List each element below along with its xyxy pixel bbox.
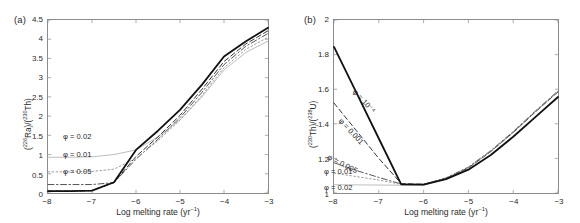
series-line <box>334 47 558 185</box>
panel-a-annotation-phi-005: φ = 0.05 <box>63 167 91 176</box>
y-tick-label: 3.5 <box>11 53 43 62</box>
y-tick-label: 4 <box>11 34 43 43</box>
panel-a-y-iso1: 226 <box>22 138 28 147</box>
panel-a-x-axis-title: Log melting rate (yr−1) <box>116 207 200 217</box>
panel-b-annotation-phi-001: φ = 0.01 <box>324 167 352 176</box>
panel-a-annotation-phi-001: φ = 0.01 <box>63 150 91 159</box>
panel-b-x-axis-title-close: ) <box>485 207 488 217</box>
y-tick-label: 1.2 <box>297 155 329 164</box>
panel-a-y-axis-title: (226Ra)/(230Th) <box>24 98 33 150</box>
y-tick-label: 0 <box>11 190 43 199</box>
panel-b-annotation-phi-002: φ = 0.02 <box>324 183 352 192</box>
x-tick-label: −7 <box>374 197 383 206</box>
panel-a-x-axis-title-exp: −1 <box>190 206 197 212</box>
panel-a-x-axis-title-close: ) <box>197 207 200 217</box>
x-tick-label: −4 <box>220 197 229 206</box>
panel-b-x-axis-title: Log melting rate (yr−1) <box>404 207 488 217</box>
x-tick-label: −4 <box>509 197 518 206</box>
x-tick-label: −7 <box>87 197 96 206</box>
series-line <box>48 33 268 184</box>
x-tick-label: −6 <box>419 197 428 206</box>
panel-a-annotation-phi-002: φ = 0.02 <box>63 132 91 141</box>
x-tick-label: −5 <box>464 197 473 206</box>
panel-b: (b) 11.21.41.61.82 −8−7−6−5−4−3 Log melt… <box>290 0 580 223</box>
y-tick-label: 2 <box>297 15 329 24</box>
panel-b-y-axis-title: (230Th)/(238U) <box>309 101 318 148</box>
y-tick-label: 1.8 <box>297 50 329 59</box>
y-tick-label: 4.5 <box>11 15 43 24</box>
x-tick-label: −6 <box>131 197 140 206</box>
panel-b-x-axis-title-text: Log melting rate (yr <box>404 207 478 217</box>
panel-a-x-axis-title-text: Log melting rate (yr <box>116 207 190 217</box>
x-tick-label: −5 <box>176 197 185 206</box>
x-tick-label: −3 <box>554 197 563 206</box>
x-tick-label: −3 <box>264 197 273 206</box>
y-tick-label: 0.5 <box>11 170 43 179</box>
figure-container: (a) 00.511.522.533.544.5 −8−7−6−5−4−3 Lo… <box>0 0 580 223</box>
panel-a: (a) 00.511.522.533.544.5 −8−7−6−5−4−3 Lo… <box>0 0 290 223</box>
x-tick-label: −8 <box>42 197 51 206</box>
x-tick-label: −8 <box>328 197 337 206</box>
y-tick-label: 1.6 <box>297 85 329 94</box>
y-tick-label: 1 <box>11 151 43 160</box>
panel-b-x-axis-title-exp: −1 <box>478 206 485 212</box>
panel-a-y-iso2: 230 <box>22 111 28 120</box>
y-tick-label: 3 <box>11 73 43 82</box>
panel-b-y-iso1: 230 <box>307 136 313 145</box>
panel-b-y-iso2: 238 <box>307 109 313 118</box>
